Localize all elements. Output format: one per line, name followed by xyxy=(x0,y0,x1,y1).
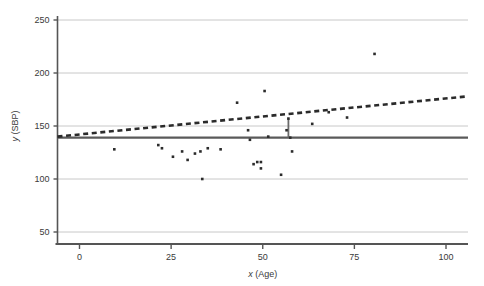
y-tick-label-50: 50 xyxy=(39,227,49,237)
x-axis-tick-labels: 0255075100 xyxy=(77,252,454,262)
data-point xyxy=(206,147,209,150)
x-tick-label-100: 100 xyxy=(438,252,453,262)
data-point xyxy=(161,147,164,150)
y-tick-label-150: 150 xyxy=(34,121,49,131)
data-point xyxy=(263,90,266,93)
data-point xyxy=(373,53,376,56)
data-point xyxy=(260,167,263,170)
data-point xyxy=(289,136,292,139)
data-point xyxy=(194,152,197,155)
y-tick-label-250: 250 xyxy=(34,15,49,25)
gridlines xyxy=(58,20,469,232)
y-axis-title: y (SBP) xyxy=(10,110,20,142)
y-tick-label-100: 100 xyxy=(34,174,49,184)
data-point xyxy=(327,111,330,114)
data-point xyxy=(311,123,314,126)
data-point xyxy=(291,150,294,153)
x-tick-label-25: 25 xyxy=(166,252,176,262)
data-points xyxy=(113,53,376,181)
data-point xyxy=(249,138,252,141)
data-point xyxy=(285,129,288,132)
data-point xyxy=(199,150,202,153)
data-point xyxy=(186,159,189,162)
x-axis-title-text: x (Age) xyxy=(247,269,277,279)
data-point xyxy=(172,155,175,158)
data-point xyxy=(287,117,290,120)
y-axis-title-text: y (SBP) xyxy=(10,110,20,142)
scatter-plot-figure: 50100150200250 0255075100 y (SBP) x (Age… xyxy=(0,0,484,286)
data-point xyxy=(113,148,116,151)
data-point xyxy=(247,129,250,132)
data-point xyxy=(267,135,270,138)
x-tick-label-50: 50 xyxy=(258,252,268,262)
x-axis-title: x (Age) xyxy=(247,269,277,279)
y-axis-tick-labels: 50100150200250 xyxy=(34,15,49,237)
data-point xyxy=(201,178,204,181)
data-point xyxy=(181,150,184,153)
trend-lines xyxy=(58,96,469,137)
regression-line xyxy=(58,96,469,136)
data-point xyxy=(157,144,160,147)
data-point xyxy=(346,116,349,119)
chart-canvas: 50100150200250 0255075100 y (SBP) x (Age… xyxy=(0,0,484,286)
data-point xyxy=(236,101,239,104)
x-tick-label-0: 0 xyxy=(77,252,82,262)
data-point xyxy=(280,173,283,176)
data-point xyxy=(219,148,222,151)
x-tick-label-75: 75 xyxy=(349,252,359,262)
data-point xyxy=(256,161,259,164)
data-point xyxy=(260,161,263,164)
y-tick-label-200: 200 xyxy=(34,68,49,78)
data-point xyxy=(252,163,255,166)
